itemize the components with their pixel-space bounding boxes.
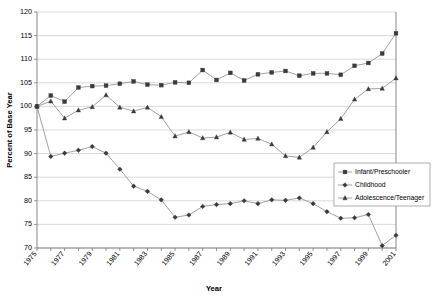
x-axis-title-text: Year	[206, 284, 222, 293]
y-axis-title-text: Percent of Base Year	[5, 92, 14, 167]
data-point-marker	[353, 64, 357, 68]
data-point-marker	[270, 71, 274, 75]
data-point-marker	[325, 209, 330, 214]
data-point-marker	[77, 86, 81, 90]
data-point-marker	[76, 148, 81, 153]
data-point-marker	[394, 76, 398, 80]
y-tick-label: 110	[21, 54, 32, 63]
data-point-marker	[132, 79, 136, 83]
x-tick-label: 2001	[380, 250, 397, 268]
x-tick-label: 1981	[104, 250, 121, 268]
data-point-marker	[297, 74, 301, 78]
data-point-marker	[201, 68, 205, 72]
y-axis-title: Percent of Base Year	[5, 92, 14, 167]
data-point-marker	[90, 144, 95, 149]
data-point-marker	[343, 170, 347, 174]
x-tick-label: 1983	[132, 250, 149, 268]
x-tick-label: 1997	[325, 250, 342, 268]
data-point-marker	[366, 212, 371, 217]
chart-container: 707580859095100105110115120 197519771979…	[0, 0, 434, 304]
data-point-marker	[200, 204, 205, 209]
data-point-marker	[214, 202, 219, 207]
data-point-marker	[339, 73, 343, 77]
data-point-marker	[145, 105, 149, 109]
x-tick-label: 1993	[270, 250, 287, 268]
data-point-marker	[187, 81, 191, 85]
data-point-marker	[311, 71, 315, 75]
x-axis-title: Year	[206, 284, 222, 293]
data-point-marker	[145, 189, 150, 194]
data-point-marker	[90, 84, 94, 88]
data-point-marker	[283, 198, 288, 203]
series-2	[35, 76, 398, 159]
data-point-marker	[228, 71, 232, 75]
series-0	[35, 31, 398, 108]
legend-item-label: Infant/Preschooler	[355, 168, 411, 175]
series-line	[37, 33, 396, 106]
data-point-marker	[49, 94, 53, 98]
y-tick-label: 75	[24, 219, 32, 228]
x-tick-label: 1985	[159, 250, 176, 268]
data-point-marker	[256, 72, 260, 76]
data-point-marker	[104, 93, 108, 97]
data-point-marker	[297, 196, 302, 201]
data-point-marker	[159, 83, 163, 87]
data-point-marker	[159, 114, 163, 118]
data-series	[35, 31, 399, 248]
x-tick-label: 1999	[353, 250, 370, 268]
data-point-marker	[256, 136, 260, 140]
gridlines	[37, 12, 396, 248]
data-point-marker	[228, 201, 233, 206]
data-point-marker	[215, 78, 219, 82]
data-point-marker	[284, 69, 288, 73]
x-tick-label: 1995	[298, 250, 315, 268]
data-point-marker	[311, 201, 316, 206]
data-point-marker	[394, 31, 398, 35]
x-tick-label: 1975	[21, 250, 38, 268]
x-tick-label: 1989	[215, 250, 232, 268]
x-tick-label: 1977	[49, 250, 66, 268]
data-point-marker	[146, 83, 150, 87]
data-point-marker	[49, 154, 54, 159]
line-chart: 707580859095100105110115120 197519771979…	[0, 0, 434, 304]
data-point-marker	[242, 199, 247, 204]
data-point-marker	[187, 213, 192, 218]
y-tick-label: 115	[21, 31, 32, 40]
y-tick-label: 105	[20, 78, 32, 87]
y-tick-labels: 707580859095100105110115120	[20, 7, 32, 252]
y-tick-label: 80	[24, 196, 32, 205]
data-point-marker	[256, 201, 261, 206]
data-point-marker	[338, 216, 343, 221]
y-tick-label: 120	[20, 7, 32, 16]
data-point-marker	[366, 61, 370, 65]
data-point-marker	[269, 198, 274, 203]
y-tick-label: 85	[24, 172, 32, 181]
x-tick-labels: 1975197719791981198319851987198919911993…	[21, 250, 397, 268]
data-point-marker	[242, 79, 246, 83]
x-tick-label: 1987	[187, 250, 204, 268]
data-point-marker	[228, 130, 232, 134]
data-point-marker	[352, 97, 356, 101]
legend: Infant/PreschoolerChildhoodAdolescence/T…	[334, 163, 430, 206]
data-point-marker	[49, 99, 53, 103]
data-point-marker	[62, 151, 67, 156]
legend-item-label: Adolescence/Teenager	[355, 194, 425, 202]
data-point-marker	[380, 52, 384, 56]
y-tick-label: 90	[24, 149, 32, 158]
x-tick-label: 1979	[77, 250, 94, 268]
data-point-marker	[104, 84, 108, 88]
data-point-marker	[63, 100, 67, 104]
legend-item-label: Childhood	[355, 181, 386, 188]
y-tick-label: 100	[20, 101, 32, 110]
data-point-marker	[352, 215, 357, 220]
data-point-marker	[325, 71, 329, 75]
data-point-marker	[173, 80, 177, 84]
x-tick-label: 1991	[242, 250, 259, 268]
data-point-marker	[118, 82, 122, 86]
y-tick-label: 95	[24, 125, 32, 134]
